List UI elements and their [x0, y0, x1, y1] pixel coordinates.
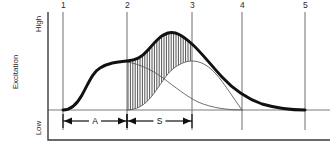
marker-number-2: 2 [125, 0, 130, 10]
dimension-arrows-group: AS [63, 114, 192, 128]
excitation-curve-figure: 12345 AS High Low Excitation [0, 0, 334, 153]
marker-number-4: 4 [240, 0, 245, 10]
total-excitation-curve [63, 33, 305, 110]
y-axis-high-label: High [34, 16, 43, 32]
dimension-arrowhead-right [118, 117, 126, 124]
dimension-label-A: A [92, 116, 98, 126]
dimension-arrowhead-left [128, 117, 136, 124]
y-axis-low-label: Low [34, 120, 43, 135]
dimension-label-S: S [157, 116, 163, 126]
chart-canvas: 12345 AS High Low Excitation [0, 0, 334, 153]
dimension-arrowhead-left [64, 117, 72, 124]
marker-number-5: 5 [303, 0, 308, 10]
marker-number-3: 3 [190, 0, 195, 10]
dimension-arrowhead-right [183, 117, 191, 124]
shaded-difference-area [128, 12, 190, 112]
secondary-excitation-falling-curve [127, 62, 242, 110]
marker-number-1: 1 [61, 0, 66, 10]
marker-number-labels-group: 12345 [61, 0, 308, 10]
y-axis-title: Excitation [11, 55, 20, 90]
dimension-S: S [127, 114, 192, 128]
secondary-excitation-rising-curve [127, 61, 242, 110]
marker-lines-group [63, 12, 305, 130]
dimension-A: A [63, 114, 127, 128]
